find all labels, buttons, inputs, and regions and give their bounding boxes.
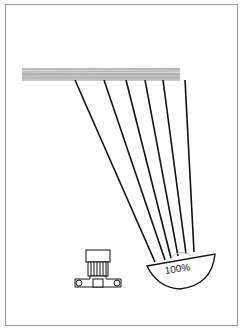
ceiling-surface <box>22 68 180 81</box>
light-meter <box>75 250 121 287</box>
diagram-canvas <box>0 0 242 333</box>
light-rays <box>75 80 194 262</box>
